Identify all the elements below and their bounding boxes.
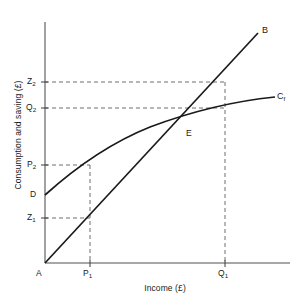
x-tick-label-a: A [36,268,42,278]
consumption-saving-chart: Consumption and saving (£) Income (£) Z2… [0,0,298,300]
annotation-label-e: E [186,128,192,138]
y-tick-label-d: D [30,189,36,199]
x-axis-title: Income (£) [110,283,220,293]
y-axis-title: Consumption and saving (£) [13,55,23,215]
y-tick-label-z1: Z1 [27,212,36,222]
y-tick-label-p2: P2 [27,159,36,169]
series-label-cf: Cf [277,91,285,101]
chart-plot-area [0,0,298,300]
x-tick-label-p1: P1 [83,268,92,278]
y-tick-label-z2: Z2 [27,76,36,86]
y-tick-label-q2: Q2 [26,102,36,112]
series-label-b: B [262,25,268,35]
consumption-function-curve [45,97,275,195]
forty-five-degree-line [45,33,258,263]
x-tick-label-q1: Q1 [218,268,228,278]
